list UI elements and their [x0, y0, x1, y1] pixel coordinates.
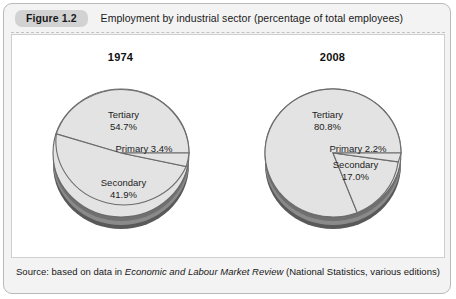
source-suffix: (National Statistics, various editions) — [283, 266, 440, 277]
figure-header: Figure 1.2 Employment by industrial sect… — [4, 4, 450, 32]
figure-frame: Figure 1.2 Employment by industrial sect… — [3, 3, 451, 294]
chart-panel: 1974 — [11, 34, 445, 258]
pie-svg-2008 — [257, 73, 409, 241]
figure-caption: Employment by industrial sector (percent… — [101, 12, 404, 24]
figure-number-badge: Figure 1.2 — [15, 10, 88, 27]
figure-source-note: Source: based on data in Economic and La… — [16, 266, 446, 277]
source-publication-title: Economic and Labour Market Review — [125, 266, 284, 277]
pie-chart-1974: 1974 — [12, 35, 229, 257]
pie-graphic-2008: Tertiary 80.8% Secondary 17.0% Primary 2… — [257, 73, 409, 241]
pie-chart-2008: 2008 Tertiary 80.8% — [224, 35, 441, 257]
pie-svg-1974 — [45, 73, 197, 241]
pie-graphic-1974: Tertiary 54.7% Secondary 41.9% Primary 3… — [45, 73, 197, 241]
header-divider — [11, 32, 445, 33]
chart-title-2008: 2008 — [224, 51, 441, 63]
chart-title-1974: 1974 — [12, 51, 229, 63]
source-prefix: Source: based on data in — [16, 266, 125, 277]
